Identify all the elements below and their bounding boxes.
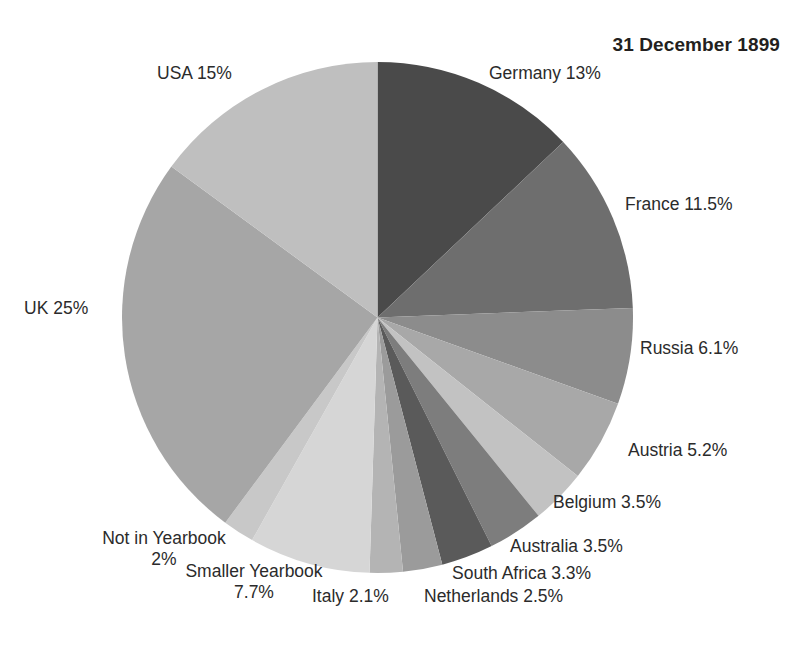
- pie-label-south-africa: South Africa 3.3%: [452, 563, 591, 584]
- pie-label-netherlands: Netherlands 2.5%: [424, 586, 563, 607]
- pie-label-smaller-yearbook-value: 7.7%: [234, 582, 274, 602]
- pie-label-not-in-yearbook-value: 2%: [151, 549, 176, 569]
- pie-label-germany: Germany 13%: [489, 63, 601, 84]
- pie-label-france: France 11.5%: [625, 194, 733, 215]
- pie-label-austria: Austria 5.2%: [628, 440, 727, 461]
- pie-label-belgium: Belgium 3.5%: [553, 492, 661, 513]
- pie-label-usa: USA 15%: [157, 63, 232, 84]
- pie-label-uk: UK 25%: [24, 298, 88, 319]
- pie-label-not-in-yearbook-name: Not in Yearbook: [102, 528, 226, 548]
- pie-chart-figure: 31 December 1899 Germany 13% France 11.5…: [0, 0, 802, 657]
- pie-label-not-in-yearbook: Not in Yearbook 2%: [90, 528, 238, 571]
- pie-label-australia: Australia 3.5%: [510, 536, 623, 557]
- pie-label-russia: Russia 6.1%: [640, 338, 738, 359]
